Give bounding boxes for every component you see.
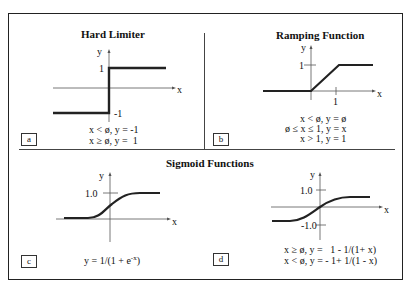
panel-b-equation-3: x > 1, y = 1 <box>300 133 346 144</box>
panel-d-y-label: y <box>310 169 315 180</box>
panel-a-tick-neg1: -1 <box>114 108 122 119</box>
panel-c-label-box: c <box>21 255 37 268</box>
panel-a-equation-2: x ≥ ø, y = 1 <box>89 135 138 146</box>
panel-b-y-label: y <box>301 42 306 53</box>
panel-c-equation-main: y = 1/(1 + e <box>84 255 131 266</box>
panel-a-title: Hard Limiter <box>81 28 145 40</box>
panel-d-tick-neg1: -1.0 <box>301 220 317 231</box>
panel-b-tick-x1: 1 <box>333 96 338 107</box>
panel-d-tick-1: 1.0 <box>300 185 313 196</box>
panel-b-label-box: b <box>213 133 229 146</box>
panel-a-equation-1: x < ø, y = -1 <box>89 124 139 135</box>
panel-b-x-label: x <box>377 88 382 99</box>
panel-b-tick-y1: 1 <box>299 60 304 71</box>
panel-a-label-box: a <box>21 133 37 146</box>
panel-d-equation-2: x < ø, y = - 1+ 1/(1 - x) <box>284 255 377 266</box>
plot-ramping-function <box>263 45 376 100</box>
panel-c-equation-tail: ) <box>137 255 140 266</box>
panel-a-tick-1: 1 <box>99 63 104 74</box>
panel-d-equation-1: x ≥ ø, y = 1 - 1/(1+ x) <box>284 244 376 255</box>
panel-d-label-box: d <box>213 253 229 266</box>
panel-d-x-label: x <box>384 204 389 215</box>
panel-a-y-label: y <box>97 46 102 57</box>
panel-c-equation: y = 1/(1 + e-x) <box>84 253 140 266</box>
plot-sigmoid-logistic <box>56 172 171 242</box>
plot-sigmoid-symmetric <box>271 172 383 240</box>
panel-a-x-label: x <box>177 84 182 95</box>
panel-c-tick-1: 1.0 <box>85 188 98 199</box>
panel-c-x-label: x <box>172 216 177 227</box>
sigmoid-section-title: Sigmoid Functions <box>166 157 254 169</box>
panel-c-y-label: y <box>99 170 104 181</box>
panel-b-title: Ramping Function <box>276 29 364 41</box>
